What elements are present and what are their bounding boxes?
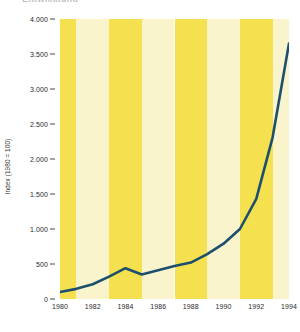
x-axis-tick-label: 1992: [248, 303, 264, 310]
y-axis-tick-label: 4.000: [30, 16, 48, 23]
x-axis-tick-label: 1994: [281, 303, 297, 310]
chart-container: Entwicklung Index (1980 = 100) 05001.000…: [0, 0, 300, 332]
y-axis-title-label: Index (1980 = 100): [5, 138, 12, 194]
line-series-svg: [60, 19, 289, 299]
y-axis-tick-label: 1.000: [30, 226, 48, 233]
y-axis-tick-label: 2.500: [30, 121, 48, 128]
y-axis-title: Index (1980 = 100): [0, 0, 16, 332]
y-axis-tick-label: 1.500: [30, 191, 48, 198]
y-axis-tick-mark: [50, 54, 55, 55]
x-axis-tick-label: 1982: [85, 303, 101, 310]
y-axis-tick-mark: [50, 159, 55, 160]
series-line-index: [60, 44, 289, 293]
x-axis-tick-label: 1986: [150, 303, 166, 310]
y-axis-tick-label: 3.500: [30, 51, 48, 58]
plot-area: [60, 19, 289, 299]
y-axis-labels: 05001.0001.5002.0002.5003.0003.5004.000: [16, 0, 56, 332]
x-axis-tick-label: 1980: [52, 303, 68, 310]
y-axis-tick-label: 2.000: [30, 156, 48, 163]
y-axis-tick-mark: [50, 229, 55, 230]
y-axis-tick-label: 0: [44, 296, 48, 303]
y-axis-tick-mark: [50, 19, 55, 20]
y-axis-tick-label: 500: [36, 261, 48, 268]
x-axis-tick-label: 1984: [117, 303, 133, 310]
x-axis-tick-label: 1988: [183, 303, 199, 310]
x-axis-tick-label: 1990: [216, 303, 232, 310]
y-axis-tick-mark: [50, 194, 55, 195]
y-axis-tick-mark: [50, 89, 55, 90]
y-axis-tick-label: 3.000: [30, 86, 48, 93]
y-axis-tick-mark: [50, 264, 55, 265]
y-axis-tick-mark: [50, 124, 55, 125]
y-axis-tick-mark: [50, 299, 55, 300]
x-axis-labels: 19801982198419861988199019921994: [0, 303, 300, 323]
